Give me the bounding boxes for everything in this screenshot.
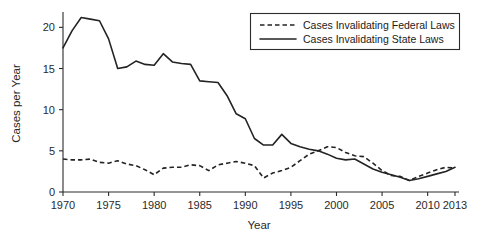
x-tick-labels: 1970197519801985199019952000200520102013 [51, 199, 467, 211]
chart-figure: 05101520 1970197519801985199019952000200… [0, 0, 483, 248]
chart-legend: Cases Invalidating Federal Laws Cases In… [251, 14, 460, 50]
y-tick-label: 15 [43, 63, 55, 75]
line-chart: 05101520 1970197519801985199019952000200… [0, 0, 483, 248]
x-axis-title: Year [247, 219, 270, 231]
y-tick-labels: 05101520 [43, 21, 55, 198]
y-tick-label: 5 [49, 145, 55, 157]
y-tick-label: 10 [43, 104, 55, 116]
x-tick-label: 1980 [142, 199, 166, 211]
x-tick-label: 2010 [415, 199, 439, 211]
legend-label-state: Cases Invalidating State Laws [303, 33, 444, 45]
x-axis-group: 1970197519801985199019952000200520102013 [51, 192, 467, 211]
y-tick-label: 0 [49, 186, 55, 198]
x-tick-marks [63, 192, 455, 196]
x-tick-label: 2000 [324, 199, 348, 211]
x-tick-label: 1995 [279, 199, 303, 211]
y-tick-label: 20 [43, 21, 55, 33]
y-tick-marks [59, 27, 63, 192]
x-tick-label: 1970 [51, 199, 75, 211]
x-tick-label: 2005 [370, 199, 394, 211]
y-axis-title: Cases per Year [10, 64, 22, 143]
x-tick-label: 1975 [96, 199, 120, 211]
x-tick-label: 1990 [233, 199, 257, 211]
x-tick-label: 2013 [443, 199, 467, 211]
y-axis-group: 05101520 [43, 12, 63, 198]
x-tick-label: 1985 [188, 199, 212, 211]
legend-label-federal: Cases Invalidating Federal Laws [303, 19, 455, 31]
